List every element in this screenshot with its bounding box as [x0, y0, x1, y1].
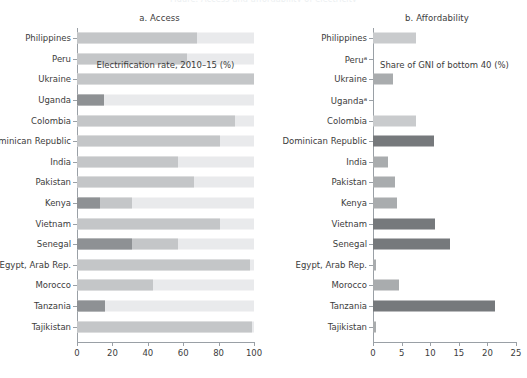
x-tick-label: 10: [425, 348, 436, 358]
bar-access-total: [77, 321, 252, 332]
bar-row: Philippines: [373, 28, 516, 49]
x-tick-mark: [430, 342, 431, 346]
bar-access-low-segment: [77, 239, 132, 250]
category-label: Vietnam: [332, 219, 367, 229]
category-label: Morocco: [35, 280, 71, 290]
category-label: Tanzania: [34, 301, 71, 311]
bar-affordability: [373, 74, 393, 85]
bar-row: Senegal: [77, 234, 254, 255]
bar-affordability: [373, 321, 376, 332]
x-tick-mark: [402, 342, 403, 346]
y-tick-mark: [369, 100, 373, 101]
category-label: Tanzania: [330, 301, 367, 311]
bar-row: Kenya: [373, 193, 516, 214]
x-tick-mark: [373, 342, 374, 346]
category-label: Pakistan: [331, 177, 367, 187]
category-label: Senegal: [37, 239, 71, 249]
bar-row: Colombia: [373, 110, 516, 131]
plot-area-affordability: PhilippinesPeruaUkraineUgandaaColombiaDo…: [373, 28, 516, 343]
x-tick-mark: [459, 342, 460, 346]
bar-access-total: [77, 74, 254, 85]
bar-rows-access: PhilippinesPeruUkraineUgandaColombiaDomi…: [77, 28, 254, 343]
bar-access-total: [77, 136, 220, 147]
x-tick-mark: [148, 342, 149, 346]
bar-row: Philippines: [77, 28, 254, 49]
category-label: Tajikistan: [32, 322, 71, 332]
category-label: Senegal: [333, 239, 367, 249]
category-label: Ugandaa: [331, 94, 367, 107]
bar-row: Uganda: [77, 90, 254, 111]
bar-row: Egypt, Arab Rep.: [77, 255, 254, 276]
category-label: India: [50, 157, 71, 167]
category-label: Kenya: [341, 198, 367, 208]
panel-access: a. Access PhilippinesPeruUkraineUgandaCo…: [0, 0, 263, 378]
x-tick-label: 15: [453, 348, 464, 358]
x-tick-label: 20: [107, 348, 118, 358]
x-ticks-affordability: 0510152025: [373, 342, 516, 343]
bar-row: India: [373, 152, 516, 173]
footnote-marker: a: [364, 96, 367, 102]
bar-row: Kenya: [77, 193, 254, 214]
bar-affordability: [373, 156, 388, 167]
bar-access-low-segment: [77, 301, 105, 312]
category-label: Dominican Republic: [0, 136, 71, 146]
category-label: Egypt, Arab Rep.: [296, 260, 367, 270]
category-label: Pakistan: [35, 177, 71, 187]
category-label: Philippines: [321, 33, 367, 43]
bar-track: [77, 95, 254, 106]
category-label: Philippines: [25, 33, 71, 43]
category-label: Egypt, Arab Rep.: [0, 260, 71, 270]
bar-affordability: [373, 259, 376, 270]
bar-affordability: [373, 33, 416, 44]
x-tick-mark: [183, 342, 184, 346]
bar-rows-affordability: PhilippinesPeruaUkraineUgandaaColombiaDo…: [373, 28, 516, 343]
x-tick-mark: [516, 342, 517, 346]
category-label: Vietnam: [36, 219, 71, 229]
x-tick-mark: [254, 342, 255, 346]
bar-affordability: [373, 177, 395, 188]
x-tick-label: 0: [74, 348, 79, 358]
bar-affordability: [373, 115, 416, 126]
figure-root: Figure. Access and affordability of elec…: [0, 0, 527, 378]
category-label: Dominican Republic: [283, 136, 367, 146]
x-tick-label: 0: [370, 348, 375, 358]
bar-access-low-segment: [77, 198, 100, 209]
category-label: Uganda: [38, 95, 71, 105]
bar-row: Ukraine: [77, 69, 254, 90]
bar-affordability: [373, 239, 450, 250]
bar-affordability: [373, 280, 399, 291]
category-label: Ukraine: [334, 74, 367, 84]
bar-affordability: [373, 218, 435, 229]
category-label: Tajikistan: [328, 322, 367, 332]
x-tick-label: 20: [482, 348, 493, 358]
bar-row: Dominican Republic: [77, 131, 254, 152]
plot-area-access: PhilippinesPeruUkraineUgandaColombiaDomi…: [77, 28, 254, 343]
x-tick-label: 80: [213, 348, 224, 358]
bar-row: Tajikistan: [373, 316, 516, 337]
x-tick-label: 25: [511, 348, 522, 358]
x-axis-title-affordability: Share of GNI of bottom 40 (%): [373, 60, 516, 70]
bar-access-low-segment: [77, 95, 104, 106]
x-axis-title-access: Electrification rate, 2010–15 (%): [77, 60, 254, 70]
panel-affordability: b. Affordability PhilippinesPeruaUkraine…: [263, 0, 527, 378]
bar-row: Senegal: [373, 234, 516, 255]
x-tick-label: 5: [399, 348, 404, 358]
bar-affordability: [373, 198, 397, 209]
x-tick-mark: [112, 342, 113, 346]
bar-row: Ugandaa: [373, 90, 516, 111]
x-tick-mark: [77, 342, 78, 346]
category-label: Perua: [345, 52, 367, 65]
bar-row: Ukraine: [373, 69, 516, 90]
category-label: Morocco: [331, 280, 367, 290]
bar-affordability: [373, 136, 434, 147]
category-label: Ukraine: [38, 74, 71, 84]
x-tick-label: 60: [178, 348, 189, 358]
bar-row: Vietnam: [77, 213, 254, 234]
bar-row: Egypt, Arab Rep.: [373, 255, 516, 276]
panel-b-title: b. Affordability: [263, 13, 527, 23]
category-label: Colombia: [31, 116, 71, 126]
bar-row: Tajikistan: [77, 316, 254, 337]
bar-row: Tanzania: [373, 296, 516, 317]
bar-access-total: [77, 280, 153, 291]
category-label: Kenya: [45, 198, 71, 208]
